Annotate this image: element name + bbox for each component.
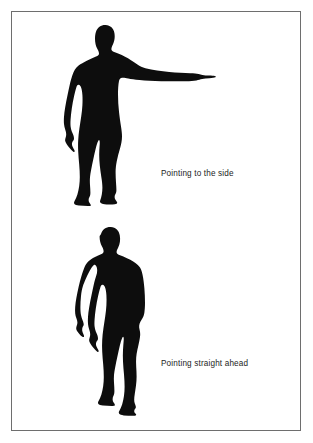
- human-silhouette-pointing-side-icon: [52, 24, 217, 206]
- human-silhouette-pointing-ahead-icon: [60, 226, 160, 416]
- caption-pointing-ahead: Pointing straight ahead: [161, 360, 248, 368]
- caption-pointing-side: Pointing to the side: [161, 170, 234, 178]
- figure-panel: Pointing to the side Pointing straight a…: [0, 0, 313, 443]
